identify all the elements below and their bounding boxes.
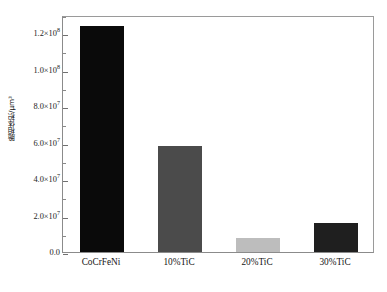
y-tick-label: 4.0×107 bbox=[12, 175, 60, 184]
y-tick-mark bbox=[63, 218, 68, 219]
figure-caption bbox=[18, 281, 378, 292]
y-tick-label: 0.0 bbox=[12, 248, 60, 257]
y-tick-label: 1.2×108 bbox=[12, 29, 60, 38]
y-minor-tick-mark bbox=[63, 126, 66, 127]
bar-30-tic[interactable] bbox=[314, 223, 358, 252]
x-axis-tick-labels: CoCrFeNi10%TiC20%TiC30%TiC bbox=[62, 256, 374, 274]
x-tick-label: 20%TiC bbox=[217, 256, 297, 268]
y-axis-tick-labels: 0.02.0×1074.0×1076.0×1078.0×1071.0×1081.… bbox=[10, 0, 60, 292]
y-tick-mark bbox=[63, 254, 68, 255]
plot-inner bbox=[63, 17, 373, 252]
bar-cocrfeni[interactable] bbox=[80, 26, 124, 252]
bar-20-tic[interactable] bbox=[236, 238, 280, 252]
bar-10-tic[interactable] bbox=[158, 146, 202, 252]
y-tick-label: 2.0×107 bbox=[12, 212, 60, 221]
y-tick-mark bbox=[63, 181, 68, 182]
y-minor-tick-mark bbox=[63, 90, 66, 91]
y-tick-mark bbox=[63, 145, 68, 146]
x-tick-label: 10%TiC bbox=[139, 256, 219, 268]
x-tick-label: CoCrFeNi bbox=[61, 256, 141, 268]
y-tick-mark bbox=[63, 35, 68, 36]
y-tick-mark bbox=[63, 108, 68, 109]
chart-figure: 脆相体积/μm³ 0.02.0×1074.0×1076.0×1078.0×107… bbox=[0, 0, 387, 292]
y-minor-tick-mark bbox=[63, 17, 66, 18]
y-tick-label: 8.0×107 bbox=[12, 102, 60, 111]
plot-area bbox=[62, 16, 374, 253]
y-minor-tick-mark bbox=[63, 53, 66, 54]
x-tick-label: 30%TiC bbox=[295, 256, 375, 268]
y-tick-mark bbox=[63, 72, 68, 73]
y-minor-tick-mark bbox=[63, 236, 66, 237]
y-tick-label: 6.0×107 bbox=[12, 139, 60, 148]
y-tick-label: 1.0×108 bbox=[12, 66, 60, 75]
y-minor-tick-mark bbox=[63, 199, 66, 200]
y-minor-tick-mark bbox=[63, 163, 66, 164]
